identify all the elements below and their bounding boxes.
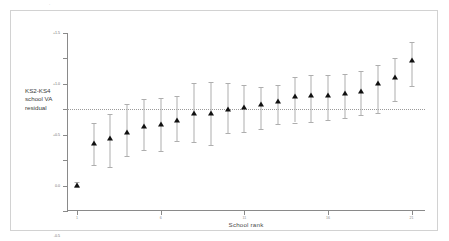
error-bar-cap-lower	[125, 156, 130, 157]
y-axis-line	[67, 33, 68, 211]
error-bar-cap-lower	[359, 115, 364, 116]
error-bar-cap-upper	[392, 58, 397, 59]
x-tick-mark: 16	[328, 210, 329, 215]
error-bar-line	[261, 87, 262, 129]
y-tick-label: +0.5	[53, 133, 60, 137]
error-bar-cap-upper	[125, 104, 130, 105]
error-bar-cap-lower	[376, 113, 381, 114]
error-bar-cap-lower	[208, 145, 213, 146]
data-point-marker	[409, 58, 415, 63]
error-bar-line	[311, 75, 312, 122]
data-point-marker	[308, 93, 314, 98]
data-point-marker	[124, 129, 130, 134]
data-point-marker	[241, 104, 247, 109]
data-point-marker	[91, 140, 97, 145]
error-bar-cap-upper	[409, 42, 414, 43]
zero-reference-line	[67, 109, 425, 110]
data-point-marker	[258, 102, 264, 107]
error-bar-line	[294, 77, 295, 122]
data-point-marker	[158, 122, 164, 127]
error-bar-line	[394, 58, 395, 100]
error-bar-cap-upper	[292, 77, 297, 78]
x-tick-label: 6	[160, 216, 162, 220]
error-bar-line	[378, 65, 379, 113]
y-tick-mark: +1.0	[63, 58, 68, 59]
y-axis-title-line-2: school VA	[25, 95, 67, 103]
y-axis-title: KS2-KS4 school VA residual	[25, 87, 67, 112]
error-bar-cap-upper	[376, 65, 381, 66]
error-bar-cap-lower	[242, 132, 247, 133]
error-bar-cap-upper	[175, 96, 180, 97]
error-bar-cap-lower	[392, 101, 397, 102]
error-bar-cap-lower	[192, 142, 197, 143]
error-bar-cap-upper	[275, 85, 280, 86]
data-point-marker	[225, 106, 231, 111]
x-tick-label: 11	[242, 216, 246, 220]
error-bar-cap-upper	[208, 82, 213, 83]
chart-frame: KS2-KS4 school VA residual +1.5+1.0+0.50…	[10, 10, 438, 231]
plot-area: +1.5+1.0+0.50.0-0.5-1.0-1.5-2.0 16111621…	[67, 33, 425, 211]
data-point-marker	[392, 74, 398, 79]
x-tick-label: 21	[410, 216, 414, 220]
data-point-marker	[275, 98, 281, 103]
x-tick-mark: 11	[244, 210, 245, 215]
error-bar-cap-upper	[192, 83, 197, 84]
y-tick-label: +1.5	[53, 31, 60, 35]
x-axis-line	[67, 210, 425, 211]
error-bar-cap-lower	[325, 120, 330, 121]
error-bar-cap-upper	[91, 123, 96, 124]
x-tick-label: 16	[326, 216, 330, 220]
data-point-marker	[358, 88, 364, 93]
y-tick-mark: -1.0	[63, 160, 68, 161]
error-bar-cap-lower	[108, 167, 113, 168]
x-tick-mark: 6	[161, 210, 162, 215]
y-tick-mark: -1.5	[63, 186, 68, 187]
x-tick-mark: 21	[412, 210, 413, 215]
error-bar-cap-upper	[108, 114, 113, 115]
error-bar-line	[277, 85, 278, 124]
data-point-marker	[141, 123, 147, 128]
x-tick-label: 1	[76, 216, 78, 220]
y-axis-title-line-1: KS2-KS4	[25, 87, 67, 95]
x-tick-mark: 1	[77, 210, 78, 215]
x-axis-title: School rank	[67, 221, 425, 229]
y-tick-mark: +0.5	[63, 84, 68, 85]
y-axis-title-line-3: residual	[25, 104, 67, 112]
error-bar-cap-lower	[91, 165, 96, 166]
error-bar-cap-lower	[259, 129, 264, 130]
data-point-marker	[208, 110, 214, 115]
error-bar-line	[411, 42, 412, 86]
chart-page: · KS2-KS4 school VA residual +1.5+1.0+0.…	[0, 0, 449, 241]
error-bar-cap-upper	[141, 99, 146, 100]
data-point-marker	[342, 91, 348, 96]
error-bar-cap-upper	[325, 75, 330, 76]
data-point-marker	[107, 136, 113, 141]
error-bar-line	[110, 114, 111, 167]
error-bar-cap-lower	[309, 122, 314, 123]
y-tick-mark: +1.5	[63, 33, 68, 34]
data-point-marker	[174, 118, 180, 123]
error-bar-cap-upper	[242, 85, 247, 86]
y-tick-label: 0.0	[55, 184, 60, 188]
error-bar-cap-lower	[409, 86, 414, 87]
error-bar-cap-upper	[309, 75, 314, 76]
error-bar-cap-lower	[141, 150, 146, 151]
data-point-marker	[191, 110, 197, 115]
error-bar-cap-upper	[259, 87, 264, 88]
error-bar-cap-upper	[225, 83, 230, 84]
y-tick-mark: -2.0	[63, 211, 68, 212]
error-bar-cap-upper	[158, 98, 163, 99]
data-point-marker	[74, 182, 80, 187]
page-artifact-mark: ·	[46, 1, 53, 7]
error-bar-cap-lower	[292, 123, 297, 124]
data-point-marker	[375, 80, 381, 85]
error-bar-cap-lower	[175, 141, 180, 142]
data-point-marker	[325, 93, 331, 98]
error-bar-cap-lower	[75, 187, 80, 188]
y-tick-label: +1.0	[53, 82, 60, 86]
error-bar-cap-lower	[158, 151, 163, 152]
y-tick-mark: -0.5	[63, 135, 68, 136]
error-bar-cap-upper	[359, 71, 364, 72]
y-tick-label: -0.5	[54, 234, 60, 238]
error-bar-cap-lower	[275, 124, 280, 125]
